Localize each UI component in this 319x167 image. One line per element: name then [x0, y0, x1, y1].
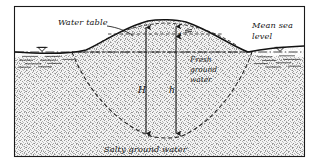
label-mean-sea-level-line1: Mean sea	[251, 20, 293, 30]
figure-root: Water table Mean sea level Fresh ground …	[0, 0, 319, 167]
label-fresh-ground-water-line2: ground	[190, 65, 217, 74]
label-fresh-ground-water-line1: Fresh	[189, 55, 212, 64]
label-salty-ground-water: Salty ground water	[104, 144, 188, 154]
label-mean-sea-level-line2: level	[252, 31, 273, 41]
label-depth-h: h	[169, 85, 175, 95]
label-water-table: Water table	[58, 17, 108, 27]
label-depth-H: H	[137, 85, 146, 95]
label-fresh-ground-water-line3: water	[190, 75, 212, 84]
hydrogeology-cross-section-diagram: Water table Mean sea level Fresh ground …	[0, 0, 319, 167]
